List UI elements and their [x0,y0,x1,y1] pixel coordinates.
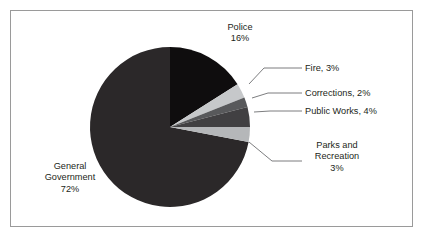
pie-label-general-government-name-2: Government [18,172,122,183]
pie-label-general-government-value: 72% [18,184,122,195]
leader-line-parks [249,142,302,161]
pie-label-public-works: Public Works, 4% [305,106,377,117]
leader-line-public-works [254,111,302,112]
pie-label-police: Police 16% [196,22,284,45]
pie-label-corrections: Corrections, 2% [305,88,370,99]
pie-label-fire-text: Fire, 3% [305,63,339,74]
pie-label-general-government-name-1: General [18,161,122,172]
pie-label-general-government: General Government 72% [18,161,122,195]
pie-label-police-name: Police [196,22,284,33]
pie-label-public-works-text: Public Works, 4% [305,106,377,117]
pie-label-corrections-text: Corrections, 2% [305,88,370,99]
pie-label-parks-name-1: Parks and [299,140,375,151]
pie-label-parks-value: 3% [299,163,375,174]
pie-label-parks-and-recreation: Parks and Recreation 3% [299,140,375,174]
pie-label-fire: Fire, 3% [305,63,339,74]
leader-line-corrections [252,93,302,98]
pie-chart-figure: Police 16% General Government 72% Fire, … [0,0,423,238]
leader-line-fire [249,68,302,84]
pie-label-parks-name-2: Recreation [299,151,375,162]
pie-label-police-value: 16% [196,33,284,44]
